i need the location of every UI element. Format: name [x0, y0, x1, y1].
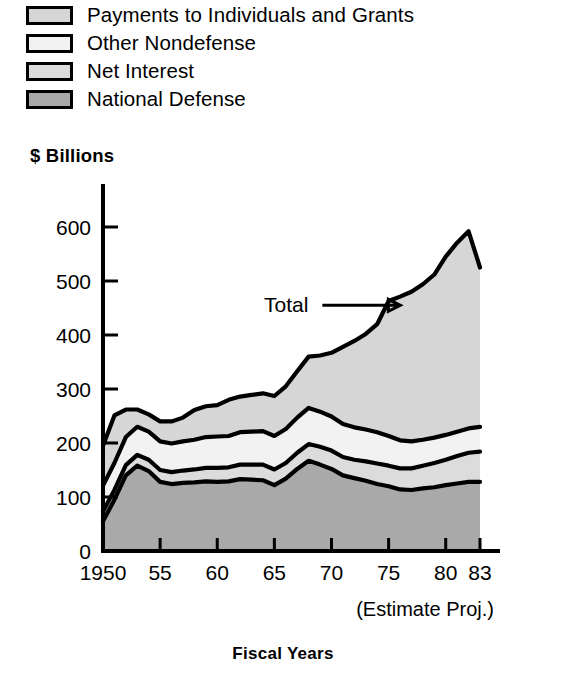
chart-areas [103, 231, 480, 551]
legend-swatch-other-nondefense [26, 34, 73, 53]
y-axis-title: $ Billions [30, 145, 114, 167]
legend-label-net-interest: Net Interest [87, 61, 194, 82]
legend-label-other-nondefense: Other Nondefense [87, 33, 256, 54]
x-axis-label-1955: 55 [148, 561, 171, 585]
legend-swatch-net-interest [26, 62, 73, 81]
x-axis-label-1970: 70 [320, 561, 343, 585]
legend-label-payments: Payments to Individuals and Grants [87, 5, 414, 26]
annotation-total-label: Total [264, 293, 308, 316]
x-axis-label-1965: 65 [263, 561, 286, 585]
legend-swatch-payments [26, 6, 73, 25]
legend-item-other-nondefense: Other Nondefense [26, 30, 546, 56]
y-tick-label-100: 100 [56, 486, 91, 509]
x-axis-label-1980: 80 [434, 561, 457, 585]
y-tick-label-600: 600 [56, 216, 91, 239]
estimate-projection-note: (Estimate Proj.) [356, 598, 494, 621]
chart-annotations: Total [264, 293, 400, 316]
chart-legend: Payments to Individuals and Grants Other… [26, 2, 546, 114]
x-axis-label-1983: 83 [468, 561, 491, 585]
legend-label-national-defense: National Defense [87, 89, 246, 110]
y-tick-label-500: 500 [56, 270, 91, 293]
y-tick-label-0: 0 [79, 540, 91, 563]
x-axis-title: Fiscal Years [0, 644, 566, 664]
y-tick-label-400: 400 [56, 324, 91, 347]
x-axis-label-1960: 60 [206, 561, 229, 585]
y-tick-label-300: 300 [56, 378, 91, 401]
legend-swatch-national-defense [26, 90, 73, 109]
x-axis-label-1950: 1950 [80, 561, 127, 585]
legend-item-payments: Payments to Individuals and Grants [26, 2, 546, 28]
annotation-total-arrow-icon [322, 299, 400, 311]
legend-item-national-defense: National Defense [26, 86, 546, 112]
legend-item-net-interest: Net Interest [26, 58, 546, 84]
y-tick-label-200: 200 [56, 432, 91, 455]
chart-area: 0100200300400500600 Total [0, 168, 566, 588]
x-axis-label-1975: 75 [377, 561, 400, 585]
stacked-area-chart: 0100200300400500600 Total [0, 168, 566, 588]
